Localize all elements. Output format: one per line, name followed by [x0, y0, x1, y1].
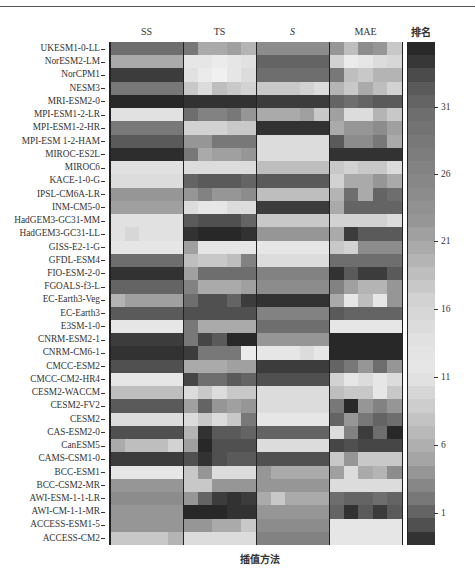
- heatmap-cell: [154, 241, 169, 254]
- heatmap-cell: [300, 227, 315, 240]
- heatmap-cell: [271, 227, 286, 240]
- heatmap-cell: [329, 214, 344, 227]
- heatmap-cell: [329, 519, 344, 532]
- heatmap-cell: [271, 148, 286, 161]
- heatmap-cell: [110, 68, 125, 81]
- heatmap-cell: [285, 479, 300, 492]
- heatmap-cell: [139, 254, 154, 267]
- heatmap-cell: [329, 426, 344, 439]
- heatmap-cell: [271, 82, 286, 95]
- heatmap-cell: [387, 42, 402, 55]
- colorbar-segment: [408, 174, 435, 187]
- heatmap-cell: [154, 399, 169, 412]
- heatmap-cell: [139, 333, 154, 346]
- heatmap-cell: [256, 95, 271, 108]
- heatmap-cell: [241, 174, 256, 187]
- heatmap-cell: [168, 267, 183, 280]
- heatmap-cell: [373, 108, 388, 121]
- heatmap-cell: [300, 148, 315, 161]
- heatmap-cell: [300, 307, 315, 320]
- heatmap-cell: [358, 227, 373, 240]
- heatmap-cell: [168, 188, 183, 201]
- heatmap-cell: [314, 241, 329, 254]
- heatmap-cell: [329, 505, 344, 518]
- heatmap-cell: [110, 373, 125, 386]
- heatmap-cell: [154, 492, 169, 505]
- heatmap-cell: [227, 399, 242, 412]
- heatmap-cell: [344, 95, 359, 108]
- heatmap-cell: [344, 227, 359, 240]
- heatmap-cell: [329, 135, 344, 148]
- heatmap-cell: [168, 466, 183, 479]
- y-label: CESM2-WACCM: [0, 386, 106, 399]
- heatmap-cell: [183, 42, 198, 55]
- y-label: CMCC-CM2-HR4: [0, 373, 106, 386]
- heatmap-cell: [168, 452, 183, 465]
- heatmap-cell: [256, 413, 271, 426]
- heatmap-cell: [154, 439, 169, 452]
- heatmap-cell: [373, 346, 388, 359]
- heatmap-cell: [241, 452, 256, 465]
- heatmap-cell: [373, 267, 388, 280]
- heatmap-cell: [183, 294, 198, 307]
- heatmap-cell: [314, 267, 329, 280]
- heatmap-cell: [227, 241, 242, 254]
- heatmap-cell: [168, 121, 183, 134]
- heatmap-cell: [212, 439, 227, 452]
- heatmap-cell: [256, 492, 271, 505]
- heatmap-cell: [358, 95, 373, 108]
- heatmap-cell: [387, 148, 402, 161]
- group-separator-s-mae: [329, 42, 331, 545]
- heatmap-cell: [125, 55, 140, 68]
- heatmap-cell: [285, 360, 300, 373]
- heatmap-cell: [125, 241, 140, 254]
- heatmap-cell: [241, 254, 256, 267]
- heatmap-cell: [227, 135, 242, 148]
- heatmap-cell: [344, 346, 359, 359]
- heatmap-cell: [183, 148, 198, 161]
- colorbar-segment: [408, 452, 435, 465]
- heatmap-cell: [212, 135, 227, 148]
- heatmap-cell: [227, 294, 242, 307]
- heatmap-cell: [241, 280, 256, 293]
- heatmap-cell: [300, 386, 315, 399]
- heatmap-cell: [387, 492, 402, 505]
- colorbar-tick-6: 6: [434, 440, 446, 450]
- y-label: FIO-ESM-2-0: [0, 267, 106, 280]
- heatmap-cell: [344, 135, 359, 148]
- heatmap-cell: [285, 373, 300, 386]
- heatmap-cell: [198, 280, 213, 293]
- heatmap-cell: [373, 68, 388, 81]
- heatmap-cell: [139, 42, 154, 55]
- heatmap-cell: [212, 505, 227, 518]
- heatmap-cell: [344, 505, 359, 518]
- heatmap-cell: [110, 413, 125, 426]
- heatmap-cell: [110, 148, 125, 161]
- heatmap-cell: [314, 452, 329, 465]
- heatmap-cell: [358, 42, 373, 55]
- heatmap-cell: [168, 135, 183, 148]
- heatmap-cell: [154, 466, 169, 479]
- heatmap-cell: [329, 82, 344, 95]
- heatmap-cell: [314, 201, 329, 214]
- heatmap-cell: [271, 201, 286, 214]
- heatmap-cell: [271, 492, 286, 505]
- heatmap-cell: [183, 479, 198, 492]
- heatmap-cell: [373, 201, 388, 214]
- heatmap-cell: [285, 280, 300, 293]
- colorbar-segment: [408, 280, 435, 293]
- colorbar-segment: [408, 68, 435, 81]
- heatmap-cell: [241, 439, 256, 452]
- heatmap-cell: [329, 267, 344, 280]
- heatmap-cell: [373, 532, 388, 545]
- heatmap-cell: [183, 161, 198, 174]
- heatmap-cell: [139, 399, 154, 412]
- heatmap-cell: [314, 148, 329, 161]
- heatmap-cell: [183, 121, 198, 134]
- heatmap-cell: [329, 280, 344, 293]
- heatmap-cell: [198, 333, 213, 346]
- heatmap-cell: [387, 55, 402, 68]
- heatmap-cell: [154, 280, 169, 293]
- heatmap-cell: [198, 532, 213, 545]
- heatmap-cell: [110, 426, 125, 439]
